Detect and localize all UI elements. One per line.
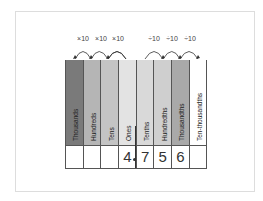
column-tens: Tens [100,60,118,169]
column-label: Thousandths [178,103,185,141]
operator-label: ×10 [108,35,128,42]
column-label: Ones [125,125,132,141]
digit-cell [101,146,118,169]
digit-cell: 7 [137,146,154,169]
column-label: Tens [108,127,115,141]
digit-cell [66,146,83,169]
column-label: Hundreds [90,113,97,141]
column-ones: Ones4 [118,60,136,169]
column-label: Ten-thousandths [196,93,203,141]
column-label: Thousands [72,109,79,141]
column-tenths: Tenths7 [136,60,154,169]
operator-label: ÷10 [162,35,182,42]
column-ten-thousandths: Ten-thousandths [189,60,207,169]
decimal-line [135,126,136,168]
column-thousandths: Thousandths6 [171,60,189,169]
digit-cell [84,146,101,169]
digit-cell [190,146,206,169]
column-label: Tenths [143,122,150,141]
digit-cell: 6 [172,146,189,169]
digit-cell: 5 [154,146,171,169]
decimal-point [133,158,136,161]
operator-label: ÷10 [144,35,164,42]
column-thousands: Thousands [65,60,83,169]
operator-label: ×10 [73,35,93,42]
column-hundredths: Hundredths5 [153,60,171,169]
operator-label: ÷10 [180,35,200,42]
column-label: Hundredths [161,107,168,141]
column-hundreds: Hundreds [83,60,101,169]
